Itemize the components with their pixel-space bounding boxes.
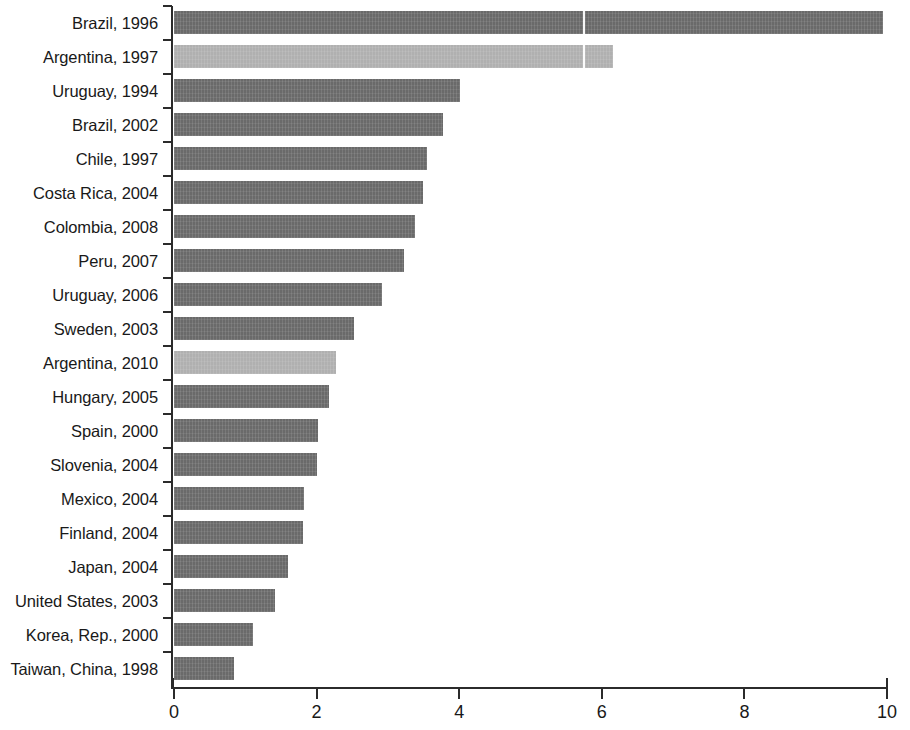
bar (174, 487, 304, 510)
category-label: Brazil, 1996 (72, 12, 158, 34)
bar-row: Argentina, 2010 (0, 346, 910, 380)
x-axis-tick-label: 6 (597, 700, 607, 724)
horizontal-bar-chart: Brazil, 1996Argentina, 1997Uruguay, 1994… (0, 0, 910, 730)
x-axis-tick-label: 8 (739, 700, 749, 724)
x-axis-cap-left (172, 678, 174, 689)
x-axis-tick-label: 0 (169, 700, 179, 724)
category-label: Hungary, 2005 (52, 386, 158, 408)
x-axis-tick (173, 689, 175, 699)
bar (174, 11, 883, 34)
category-label: Sweden, 2003 (54, 318, 158, 340)
bar (174, 623, 253, 646)
category-label: Slovenia, 2004 (50, 454, 158, 476)
y-axis-line (171, 6, 173, 689)
category-label: Chile, 1997 (76, 148, 158, 170)
x-axis-tick-label: 10 (877, 700, 897, 724)
x-axis-tick (458, 689, 460, 699)
bar-row: Taiwan, China, 1998 (0, 652, 910, 686)
bar-row: Uruguay, 2006 (0, 278, 910, 312)
x-axis-tick-label: 2 (312, 700, 322, 724)
category-label: Japan, 2004 (68, 556, 158, 578)
x-axis-tick-label: 4 (454, 700, 464, 724)
x-axis-tick (601, 689, 603, 699)
bar (174, 283, 382, 306)
category-label: Finland, 2004 (59, 522, 158, 544)
bar-row: Korea, Rep., 2000 (0, 618, 910, 652)
bar-row: Finland, 2004 (0, 516, 910, 550)
bar-row: Brazil, 2002 (0, 108, 910, 142)
bar (174, 113, 443, 136)
bar-row: Spain, 2000 (0, 414, 910, 448)
bar (174, 215, 415, 238)
bar (174, 453, 317, 476)
category-label: Peru, 2007 (78, 250, 158, 272)
bar (174, 657, 234, 680)
category-label: Korea, Rep., 2000 (26, 624, 158, 646)
x-axis-cap-right (886, 678, 888, 689)
x-axis-tick (743, 689, 745, 699)
category-label: Mexico, 2004 (61, 488, 158, 510)
bar (174, 249, 404, 272)
bar (174, 385, 329, 408)
bar (174, 317, 354, 340)
bar-highlighted (174, 351, 336, 374)
category-label: Spain, 2000 (71, 420, 158, 442)
plot-area: Brazil, 1996Argentina, 1997Uruguay, 1994… (0, 0, 910, 730)
bar-row: Chile, 1997 (0, 142, 910, 176)
bar (174, 589, 275, 612)
x-axis-line (172, 687, 888, 689)
bar-row: Peru, 2007 (0, 244, 910, 278)
bar-row: Costa Rica, 2004 (0, 176, 910, 210)
category-label: Argentina, 2010 (43, 352, 158, 374)
bar-row: Sweden, 2003 (0, 312, 910, 346)
bar-row: Hungary, 2005 (0, 380, 910, 414)
bar-row: Argentina, 1997 (0, 40, 910, 74)
x-axis-tick (886, 689, 888, 699)
x-axis-tick (316, 689, 318, 699)
bar-row: Slovenia, 2004 (0, 448, 910, 482)
bar-row: United States, 2003 (0, 584, 910, 618)
category-label: Taiwan, China, 1998 (10, 658, 158, 680)
category-label: Argentina, 1997 (43, 46, 158, 68)
bar-row: Brazil, 1996 (0, 6, 910, 40)
scan-seam-artifact (583, 0, 585, 75)
category-label: Uruguay, 1994 (52, 80, 158, 102)
bar (174, 147, 427, 170)
category-label: Costa Rica, 2004 (33, 182, 158, 204)
bar-row: Colombia, 2008 (0, 210, 910, 244)
category-label: United States, 2003 (15, 590, 158, 612)
bar-row: Japan, 2004 (0, 550, 910, 584)
bar-highlighted (174, 45, 613, 68)
bar (174, 521, 303, 544)
category-label: Colombia, 2008 (44, 216, 158, 238)
category-label: Uruguay, 2006 (52, 284, 158, 306)
bar (174, 419, 318, 442)
bar (174, 555, 288, 578)
bar-row: Uruguay, 1994 (0, 74, 910, 108)
bar-row: Mexico, 2004 (0, 482, 910, 516)
category-label: Brazil, 2002 (72, 114, 158, 136)
bar (174, 79, 460, 102)
bar (174, 181, 423, 204)
